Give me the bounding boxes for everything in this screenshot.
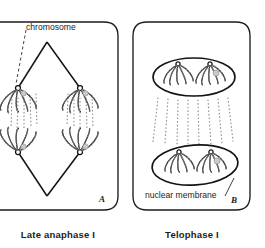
spindle-apparatus-a xyxy=(18,42,80,196)
chromosome-cluster-bottom-left xyxy=(0,127,36,154)
chromosome-cluster-nucleus-lower-right xyxy=(197,150,226,173)
nuclear-membrane-leader-line xyxy=(225,178,234,196)
chromosome-cluster-nucleus-upper-right xyxy=(196,62,225,85)
nucleus-lower xyxy=(151,142,240,188)
nuclear-membrane-label: nuclear membrane xyxy=(145,190,217,200)
caption-late-anaphase: Late anaphase I xyxy=(21,229,95,240)
panel-a: chromosome A xyxy=(0,22,118,210)
chromosome-label: chromosome xyxy=(26,22,76,32)
chromosome-cluster-nucleus-upper-left xyxy=(164,62,193,85)
chromosome-leader-line xyxy=(16,30,26,84)
nucleus-upper xyxy=(153,58,235,96)
spindle-fibers-b xyxy=(153,98,233,145)
panel-b-letter: B xyxy=(230,195,237,205)
caption-telophase: Telophase I xyxy=(165,229,219,240)
panel-b: nuclear membrane B xyxy=(133,22,250,210)
meiosis-figure: chromosome A xyxy=(0,0,265,248)
chromosome-cluster-nucleus-lower-left xyxy=(165,150,194,173)
chromosome-cluster-bottom-right xyxy=(62,127,98,154)
panel-a-letter: A xyxy=(98,194,105,204)
